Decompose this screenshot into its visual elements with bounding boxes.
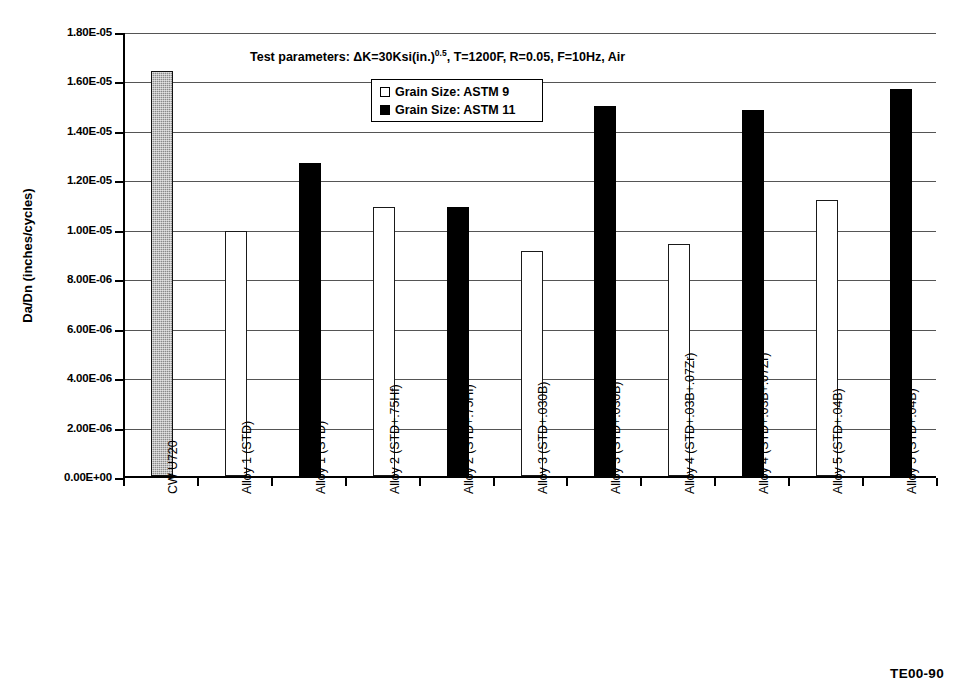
x-axis-label-8: Alloy 4 (STD+.03B+.07Zr): [683, 353, 697, 494]
annotation-rest: , T=1200F, R=0.05, F=10Hz, Air: [447, 50, 625, 64]
x-axis-label-4: Alloy 2 (STD+.75Hf): [388, 384, 402, 494]
gridline: [125, 181, 936, 182]
annotation-exponent: 0.5: [435, 48, 447, 58]
bar-1: [151, 71, 173, 476]
x-tick-mark: [271, 478, 273, 486]
legend-label-astm9: Grain Size: ASTM 9: [395, 85, 509, 99]
x-axis-label-10: Alloy 5 (STD+.04B): [831, 388, 845, 494]
x-tick-mark: [345, 478, 347, 486]
y-tick-label: 2.00E-06: [26, 423, 112, 435]
x-tick-mark: [640, 478, 642, 486]
y-tick-label: 8.00E-06: [26, 274, 112, 286]
x-axis-label-5: Alloy 2 (STD+.75Hf): [462, 384, 476, 494]
x-tick-mark: [197, 478, 199, 486]
y-tick-mark: [115, 181, 123, 183]
x-tick-mark: [566, 478, 568, 486]
x-tick-mark: [123, 478, 125, 486]
x-axis-label-7: Alloy 3 (STD+.030B): [609, 382, 623, 494]
legend-label-astm11: Grain Size: ASTM 11: [395, 103, 515, 117]
x-axis-label-1: CW U720: [166, 441, 180, 494]
y-tick-mark: [115, 33, 123, 35]
x-axis-label-2: Alloy 1 (STD): [240, 421, 254, 494]
chart-figure: Da/Dn (inches/cycles) 1.80E-051.60E-051.…: [0, 0, 972, 695]
x-axis-label-9: Alloy 4 (STD+.03B+.07Zr): [757, 353, 771, 494]
legend-swatch-open-icon: [380, 87, 390, 97]
y-tick-label: 1.60E-05: [26, 76, 112, 88]
y-tick-mark: [115, 429, 123, 431]
x-tick-mark: [419, 478, 421, 486]
legend-entry-astm9: Grain Size: ASTM 9: [380, 83, 542, 101]
x-axis-label-3: Alloy 1 (STD): [314, 421, 328, 494]
y-axis-title-container: Da/Dn (inches/cycles): [10, 60, 40, 460]
y-tick-label: 0.00E+00: [26, 472, 112, 484]
x-axis-label-11: Alloy 5 (STD+.04B): [905, 388, 919, 494]
gridline: [125, 132, 936, 133]
x-tick-mark: [862, 478, 864, 486]
x-tick-mark: [788, 478, 790, 486]
annotation-main: Test parameters: ΔK=30Ksi(in.): [250, 50, 435, 64]
test-parameters-annotation: Test parameters: ΔK=30Ksi(in.)0.5, T=120…: [250, 48, 625, 64]
y-tick-mark: [115, 330, 123, 332]
y-tick-label: 6.00E-06: [26, 324, 112, 336]
legend-swatch-filled-icon: [380, 105, 390, 115]
y-tick-mark: [115, 132, 123, 134]
x-tick-mark: [936, 478, 938, 486]
y-tick-label: 1.20E-05: [26, 175, 112, 187]
legend-entry-astm11: Grain Size: ASTM 11: [380, 101, 542, 119]
y-tick-label: 4.00E-06: [26, 373, 112, 385]
y-tick-label: 1.00E-05: [26, 225, 112, 237]
figure-code: TE00-90: [890, 666, 944, 681]
y-tick-label: 1.40E-05: [26, 126, 112, 138]
legend-box: Grain Size: ASTM 9 Grain Size: ASTM 11: [371, 79, 543, 122]
x-tick-mark: [714, 478, 716, 486]
y-tick-mark: [115, 231, 123, 233]
x-axis-label-6: Alloy 3 (STD+.030B): [536, 382, 550, 494]
y-tick-label: 1.80E-05: [26, 27, 112, 39]
y-tick-mark: [115, 379, 123, 381]
gridline: [125, 33, 936, 34]
x-tick-mark: [493, 478, 495, 486]
y-tick-mark: [115, 478, 123, 480]
y-tick-mark: [115, 82, 123, 84]
y-tick-mark: [115, 280, 123, 282]
